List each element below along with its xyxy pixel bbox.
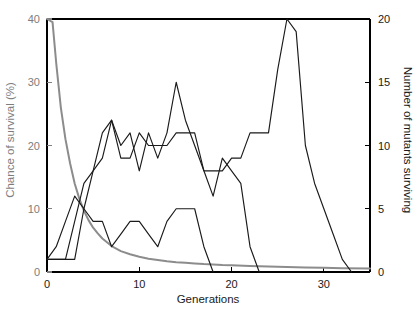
chart-figure: 010203001020304005101520 Generations Cha…	[0, 0, 418, 322]
line-chart: 010203001020304005101520 Generations Cha…	[0, 0, 418, 322]
x-tick-label: 10	[133, 278, 145, 290]
y-tick-label-left: 20	[28, 140, 40, 152]
x-tick-label: 20	[225, 278, 237, 290]
y-tick-label-left: 10	[28, 203, 40, 215]
y-tick-label-left: 0	[34, 266, 40, 278]
y-tick-label-left: 40	[28, 13, 40, 25]
x-tick-label: 0	[44, 278, 50, 290]
x-tick-label: 30	[318, 278, 330, 290]
y-tick-label-right: 5	[378, 203, 384, 215]
x-axis-title: Generations	[177, 293, 240, 305]
chart-background	[0, 0, 418, 322]
y-tick-label-right: 20	[378, 13, 390, 25]
y-tick-label-right: 0	[378, 266, 384, 278]
y-tick-label-left: 30	[28, 76, 40, 88]
y-axis-right-title: Number of mutants surviving	[402, 67, 414, 213]
y-axis-left-title: Chance of survival (%)	[4, 82, 16, 198]
y-tick-label-right: 15	[378, 76, 390, 88]
y-tick-label-right: 10	[378, 140, 390, 152]
